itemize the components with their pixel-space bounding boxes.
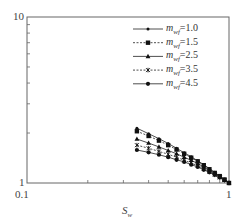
data-point-marker <box>174 147 178 151</box>
data-point-marker <box>147 150 151 154</box>
data-point-marker <box>135 129 139 133</box>
data-point-marker <box>222 178 226 182</box>
legend-marker-icon <box>147 28 150 31</box>
data-point-marker <box>157 138 161 142</box>
data-point-marker <box>182 160 186 164</box>
data-point-marker <box>135 148 139 152</box>
data-point-marker <box>157 153 161 157</box>
legend-item-1: mwf=1.5 <box>166 36 198 50</box>
data-point-marker <box>218 175 222 179</box>
data-point-marker <box>213 173 217 177</box>
data-point-marker <box>196 165 200 169</box>
data-point-marker <box>227 181 231 185</box>
legend-marker-icon <box>146 68 150 73</box>
x-axis-label: Sw <box>122 204 132 219</box>
legend-marker-icon <box>146 41 150 45</box>
plot-frame <box>27 17 229 183</box>
legend-item-3: mwf=3.5 <box>166 63 198 77</box>
data-point-marker <box>174 158 178 162</box>
legend-item-0: mwf=1.0 <box>166 22 198 36</box>
y-tick-label-max: 10 <box>13 10 24 22</box>
series-line-3 <box>137 145 229 183</box>
y-tick-label-min: 1 <box>19 176 25 188</box>
legend-value: =4.5 <box>180 77 198 88</box>
legend-item-2: mwf=2.5 <box>166 49 198 63</box>
legend-sub: wf <box>173 83 180 91</box>
data-point-marker <box>202 168 206 172</box>
data-point-marker <box>135 136 140 140</box>
x-axis-label-sub: w <box>128 211 133 219</box>
data-point-marker <box>189 163 193 167</box>
legend-value: =3.5 <box>180 63 198 74</box>
data-point-marker <box>166 143 170 147</box>
legend-item-4: mwf=4.5 <box>166 77 198 91</box>
chart-plot-area <box>0 0 242 223</box>
data-point-marker <box>146 134 150 138</box>
legend-value: =1.0 <box>180 22 198 33</box>
legend-marker-icon <box>146 82 150 86</box>
legend-value: =1.5 <box>180 36 198 47</box>
x-tick-label-max: 1 <box>226 188 232 200</box>
data-point-marker <box>207 170 211 174</box>
legend-value: =2.5 <box>180 49 198 60</box>
x-tick-label-min: 0.1 <box>15 188 29 200</box>
data-point-marker <box>166 155 170 159</box>
